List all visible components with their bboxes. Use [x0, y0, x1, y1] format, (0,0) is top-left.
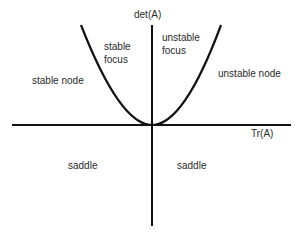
region-stable-focus-line2: focus [104, 53, 128, 66]
region-saddle-right: saddle [177, 159, 206, 172]
region-stable-node: stable node [32, 74, 84, 87]
region-unstable-node: unstable node [218, 67, 281, 80]
diagram-canvas [0, 0, 297, 234]
region-stable-focus-line1: stable [104, 40, 131, 53]
region-unstable-focus-line2: focus [162, 44, 186, 57]
trace-determinant-diagram: det(A) Tr(A) stable node stable focus un… [0, 0, 297, 234]
region-saddle-left: saddle [68, 159, 97, 172]
region-unstable-focus-line1: unstable [162, 31, 200, 44]
x-axis-label: Tr(A) [251, 127, 273, 140]
y-axis-label: det(A) [134, 8, 161, 21]
